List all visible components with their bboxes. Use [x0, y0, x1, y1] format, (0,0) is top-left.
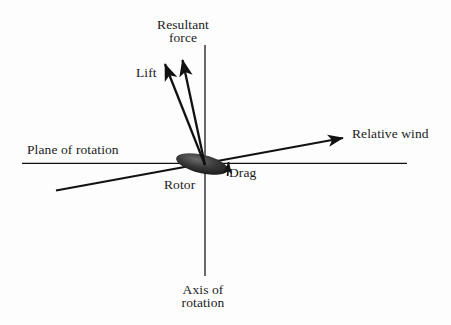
label-plane-of-rotation: Plane of rotation [27, 143, 119, 156]
label-drag: Drag [229, 166, 256, 179]
label-lift: Lift [136, 66, 157, 79]
diagram-canvas: Resultant force Lift Relative wind Plane… [0, 0, 451, 325]
resultant-force-arrow [183, 60, 206, 165]
rotor-force-diagram [0, 0, 451, 325]
label-relative-wind: Relative wind [352, 127, 429, 140]
label-rotor: Rotor [164, 178, 195, 191]
lift-arrow [165, 64, 205, 165]
label-resultant-force: Resultant force [150, 18, 216, 44]
label-axis-of-rotation: Axis of rotation [170, 283, 236, 309]
